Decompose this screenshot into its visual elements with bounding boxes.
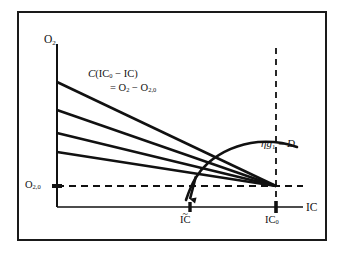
y-axis-label: O2 bbox=[44, 33, 56, 47]
budget-formula-line2: = O2 − O2,0 bbox=[88, 82, 156, 94]
tilde-accent-icon: ~ bbox=[180, 209, 191, 219]
figure-container: O2 IC O2,0 ~IC IC0 C(IC0 − IC) = O2 − O2… bbox=[0, 0, 344, 253]
x-tick-label-IC-tilde: ~IC bbox=[180, 214, 191, 225]
x-tick-label-IC-zero-text: IC bbox=[265, 214, 276, 225]
budget-line-1 bbox=[57, 82, 276, 186]
budget-line-4 bbox=[57, 152, 276, 186]
x-axis-label-text: IC bbox=[306, 201, 318, 213]
budget-formula-line1: C(IC0 − IC) bbox=[88, 68, 138, 79]
x-axis-label: IC bbox=[306, 201, 318, 213]
eta-g1-curve-label: ηg1 = D bbox=[261, 138, 295, 150]
budget-formula-minus-O: − O bbox=[129, 82, 148, 93]
y-tick-label-sub: 2,0 bbox=[33, 183, 41, 190]
budget-formula-open: (IC bbox=[95, 68, 109, 79]
budget-formula-minus-IC: − IC) bbox=[113, 68, 138, 79]
budget-formula-eq-O: = O bbox=[110, 82, 126, 93]
y-axis-label-sub: 2 bbox=[52, 39, 56, 47]
budget-line-3 bbox=[57, 133, 276, 186]
budget-formula-annotation: C(IC0 − IC) = O2 − O2,0 bbox=[88, 68, 156, 95]
x-tick-label-IC-zero-sub: 0 bbox=[276, 218, 279, 225]
y-tick-label-O2-0: O2,0 bbox=[25, 179, 41, 191]
budget-line-2 bbox=[57, 110, 276, 186]
budget-formula-O20-sub: 2,0 bbox=[148, 87, 156, 94]
D-symbol: D bbox=[287, 137, 295, 149]
x-tick-label-IC-zero: IC0 bbox=[265, 214, 279, 226]
y-tick-label-text: O bbox=[25, 179, 33, 190]
equals-symbol: = bbox=[275, 137, 287, 149]
